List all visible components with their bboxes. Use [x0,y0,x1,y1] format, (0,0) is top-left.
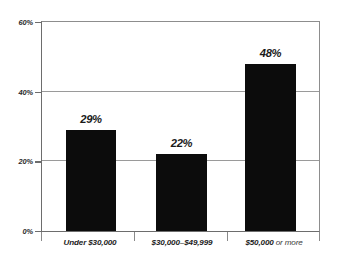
bar-50000-or-more[interactable] [245,64,296,231]
y-tick-label-40: 40% [19,87,34,96]
y-tick-mark-20 [35,161,42,162]
y-tick-label-60: 60% [19,18,34,27]
bar-under-30000[interactable] [66,130,116,231]
category-tick-left [41,232,42,241]
y-tick-label-0: 0% [23,227,33,236]
y-tick-label-20: 20% [19,157,34,166]
y-tick-mark-60 [35,22,42,23]
y-tick-mark-40 [35,92,42,93]
category-tick-right [319,232,320,241]
bar-value-label-2: 22% [171,137,193,149]
x-category-label-2: $30,000–$49,999 [152,238,213,247]
category-tick-2 [227,232,228,241]
category-tick-1 [134,232,135,241]
x-category-label-3-trail: or more [274,238,303,247]
x-category-label-3-lead: $50,000 [245,238,273,247]
x-category-label-1: Under $30,000 [64,238,117,247]
bar-30000-49999[interactable] [156,154,207,231]
bar-value-label-1: 29% [80,113,102,125]
bar-value-label-3: 48% [260,47,282,59]
plot-area: 60% 40% 20% 0% 29% 22% 48% [41,21,320,232]
bar-chart: 60% 40% 20% 0% 29% 22% 48% Under $30,000… [0,0,337,264]
x-category-label-3: $50,000 or more [245,238,302,247]
